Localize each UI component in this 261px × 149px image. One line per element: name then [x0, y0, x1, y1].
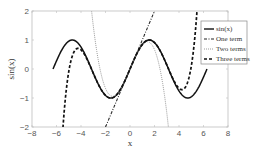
- y-axis-label: sin(x): [6, 59, 16, 80]
- x-tick-label: −6: [52, 129, 62, 138]
- x-tick-label: −4: [76, 129, 86, 138]
- y-tick-label: −1: [20, 94, 30, 103]
- legend-label-two-terms: Two terms: [216, 45, 246, 53]
- legend-label-sin: sin(x): [216, 25, 233, 33]
- x-tick-label: −2: [101, 129, 111, 138]
- legend-label-one-term: One term: [216, 35, 243, 43]
- y-tick-label: 2: [25, 7, 30, 16]
- x-tick-label: 2: [152, 129, 157, 138]
- x-tick-label: 4: [177, 129, 182, 138]
- x-tick-label: 6: [201, 129, 206, 138]
- y-tick-label: −2: [20, 123, 30, 132]
- x-axis-label: x: [128, 138, 133, 148]
- y-tick-label: 1: [25, 36, 30, 45]
- x-tick-label: 0: [128, 129, 133, 138]
- taylor-series-chart: −8−6−4−202468−2−1012 x sin(x) sin(x) One…: [0, 0, 261, 149]
- x-tick-label: 8: [226, 129, 231, 138]
- legend: sin(x) One term Two terms Three terms: [201, 21, 250, 64]
- legend-label-three-terms: Three terms: [216, 55, 250, 63]
- y-tick-label: 0: [25, 65, 30, 74]
